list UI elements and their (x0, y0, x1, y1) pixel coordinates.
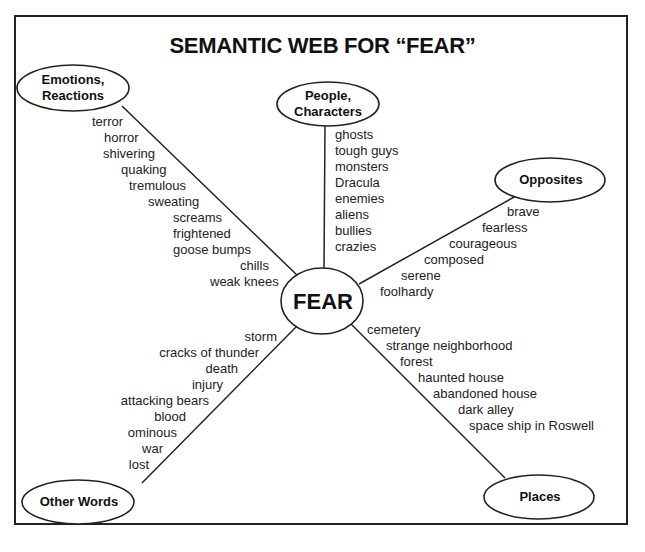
node-center-label: FEAR (293, 294, 353, 310)
opposite-word: brave (507, 204, 540, 220)
place-word: forest (400, 354, 433, 370)
people-word: Dracula (335, 175, 380, 191)
people-word: monsters (335, 159, 388, 175)
other-word: lost (129, 457, 149, 473)
people-word: enemies (335, 191, 384, 207)
emotion-word: horror (104, 130, 139, 146)
emotion-word: shivering (103, 146, 155, 162)
people-word: bullies (335, 223, 372, 239)
emotion-word: weak knees (210, 274, 279, 290)
people-word: ghosts (335, 127, 373, 143)
node-other-words-label: Other Words (40, 494, 119, 510)
other-word: blood (154, 409, 186, 425)
place-word: space ship in Roswell (469, 418, 594, 434)
opposite-word: composed (424, 252, 484, 268)
emotion-word: frightened (173, 226, 231, 242)
opposite-word: fearless (482, 220, 528, 236)
other-word: cracks of thunder (159, 345, 259, 361)
other-word: storm (245, 329, 278, 345)
other-word: death (205, 361, 238, 377)
people-word: crazies (335, 239, 376, 255)
other-word: war (142, 441, 163, 457)
opposite-word: foolhardy (380, 284, 433, 300)
label-line: Emotions, (42, 72, 105, 88)
emotion-word: quaking (121, 162, 167, 178)
place-word: haunted house (418, 370, 504, 386)
diagram-title: SEMANTIC WEB FOR “FEAR” (0, 33, 645, 59)
emotion-word: goose bumps (173, 242, 251, 258)
place-word: strange neighborhood (386, 338, 513, 354)
node-people-label: People, Characters (294, 88, 362, 120)
people-word: aliens (335, 207, 369, 223)
connector-people (324, 126, 325, 268)
node-emotions-label: Emotions, Reactions (42, 72, 105, 104)
emotion-word: terror (92, 114, 123, 130)
emotion-word: tremulous (129, 178, 186, 194)
emotion-word: sweating (148, 194, 199, 210)
other-word: attacking bears (121, 393, 209, 409)
node-places-label: Places (519, 489, 560, 505)
other-word: ominous (128, 425, 177, 441)
emotion-word: chills (240, 258, 269, 274)
place-word: dark alley (458, 402, 514, 418)
emotion-word: screams (173, 210, 222, 226)
place-word: cemetery (367, 322, 420, 338)
node-opposites-label: Opposites (519, 172, 583, 188)
people-word: tough guys (335, 143, 399, 159)
other-word: injury (192, 377, 223, 393)
label-line: People, (294, 88, 362, 104)
opposite-word: serene (401, 268, 441, 284)
place-word: abandoned house (433, 386, 537, 402)
label-line: Reactions (42, 88, 105, 104)
opposite-word: courageous (449, 236, 517, 252)
label-line: Characters (294, 104, 362, 120)
